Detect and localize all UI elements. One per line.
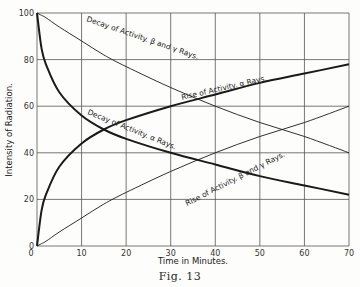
curve-annotations: Decay of Activity. β and γ Rays.Rise of … [85, 14, 286, 207]
chart: 020406080100 010203040506070 Decay of Ac… [0, 0, 360, 270]
svg-text:50: 50 [255, 249, 265, 258]
curves [37, 13, 349, 246]
svg-text:60: 60 [24, 102, 34, 111]
svg-text:20: 20 [121, 249, 131, 258]
y-axis-label: Intensity of Radiation. [4, 83, 14, 176]
svg-text:Decay of Activity. α Rays.: Decay of Activity. α Rays. [86, 108, 177, 152]
curve-1 [37, 106, 349, 246]
svg-text:80: 80 [24, 56, 34, 65]
svg-text:10: 10 [76, 249, 86, 258]
grid [37, 13, 349, 246]
curve-0 [37, 13, 349, 153]
y-tick-labels: 020406080100 [19, 9, 34, 251]
svg-text:70: 70 [344, 249, 354, 258]
svg-text:100: 100 [19, 9, 34, 18]
svg-text:20: 20 [24, 195, 34, 204]
svg-text:60: 60 [299, 249, 309, 258]
figure-caption: Fig. 13 [0, 270, 360, 283]
svg-text:Rise of Activity. α Rays.: Rise of Activity. α Rays. [180, 74, 267, 102]
svg-text:0: 0 [28, 249, 33, 258]
curve-2 [37, 13, 349, 195]
svg-text:40: 40 [24, 149, 34, 158]
x-axis-label: Time in Minutes. [157, 256, 228, 266]
